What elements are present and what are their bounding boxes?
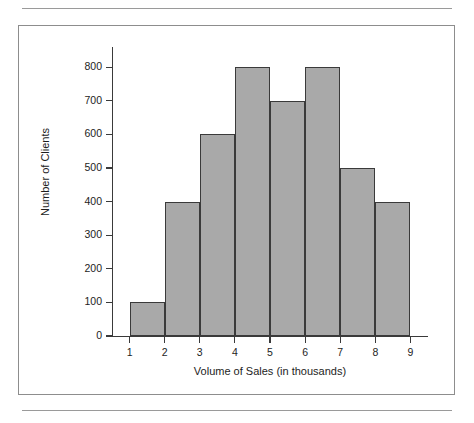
plot-area: 0100200300400500600700800 123456789 Numb… — [19, 26, 456, 396]
y-axis-tick-label: 100 — [74, 295, 102, 307]
x-axis-tick-label: 9 — [400, 346, 420, 358]
x-axis-tick — [129, 337, 130, 343]
histogram-bar — [165, 202, 200, 336]
histogram-bar — [375, 202, 410, 336]
x-axis-tick — [410, 337, 411, 343]
y-axis-tick-label: 200 — [74, 262, 102, 274]
x-axis-tick — [375, 337, 376, 343]
y-axis-tick — [106, 268, 112, 269]
histogram-bar — [270, 101, 305, 336]
page-rule-top — [22, 8, 452, 9]
x-axis-title: Volume of Sales (in thousands) — [112, 365, 428, 377]
y-axis-line — [112, 47, 113, 337]
y-axis-tick-label: 0 — [74, 329, 102, 341]
x-axis-tick-label: 5 — [260, 346, 280, 358]
y-axis-tick — [106, 302, 112, 303]
x-axis-tick — [199, 337, 200, 343]
y-axis-tick-label: 500 — [74, 161, 102, 173]
y-axis-tick — [106, 335, 112, 336]
histogram-bar — [305, 67, 340, 336]
y-axis-tick — [106, 167, 112, 168]
x-axis-tick — [234, 337, 235, 343]
y-axis-tick-label: 400 — [74, 195, 102, 207]
histogram-bar — [340, 168, 375, 336]
x-axis-tick-label: 4 — [225, 346, 245, 358]
x-axis-tick — [269, 337, 270, 343]
y-axis-tick — [106, 201, 112, 202]
y-axis-tick-label: 700 — [74, 94, 102, 106]
x-axis-tick-label: 6 — [295, 346, 315, 358]
x-axis-tick-label: 8 — [365, 346, 385, 358]
x-axis-tick-label: 7 — [330, 346, 350, 358]
y-axis-tick-label: 800 — [74, 60, 102, 72]
x-axis-tick-label: 1 — [120, 346, 140, 358]
y-axis-tick — [106, 100, 112, 101]
x-axis-tick — [305, 337, 306, 343]
y-axis-tick — [106, 67, 112, 68]
x-axis-tick — [340, 337, 341, 343]
y-axis-tick-label: 600 — [74, 127, 102, 139]
x-axis-tick-label: 3 — [190, 346, 210, 358]
y-axis-title: Number of Clients — [39, 102, 51, 242]
histogram-bar — [235, 67, 270, 336]
y-axis-tick-label: 300 — [74, 228, 102, 240]
histogram-bar — [200, 134, 235, 336]
x-axis-tick — [164, 337, 165, 343]
y-axis-tick — [106, 235, 112, 236]
y-axis-tick — [106, 134, 112, 135]
histogram-bar — [130, 302, 165, 336]
page-rule-bottom — [22, 410, 452, 411]
x-axis-tick-label: 2 — [155, 346, 175, 358]
figure-box: 0100200300400500600700800 123456789 Numb… — [18, 25, 455, 395]
